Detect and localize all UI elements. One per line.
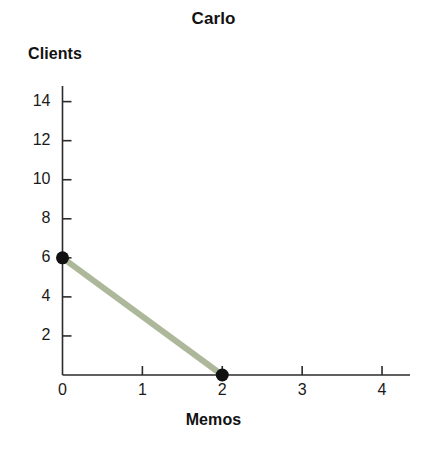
x-tick-label-2: 2 [207,381,237,399]
y-tick-label-10: 10 [21,170,51,188]
data-point-marker [56,251,69,264]
series-line-0 [63,258,223,375]
plot-area: 2468101214 01234 [0,0,427,452]
x-tick-label-4: 4 [367,381,397,399]
y-tick-marks [63,102,72,336]
data-point-marker [216,369,229,382]
y-tick-label-12: 12 [21,131,51,149]
y-tick-label-8: 8 [21,209,51,227]
y-tick-label-14: 14 [21,92,51,110]
y-tick-label-6: 6 [21,248,51,266]
y-tick-label-2: 2 [21,326,51,344]
chart-page: Carlo Clients Memos 2468101214 01234 [0,0,427,452]
data-series-line [63,258,223,375]
x-tick-label-3: 3 [287,381,317,399]
y-tick-label-4: 4 [21,287,51,305]
x-tick-label-1: 1 [127,381,157,399]
x-tick-marks [142,366,382,375]
x-tick-label-0: 0 [48,381,78,399]
